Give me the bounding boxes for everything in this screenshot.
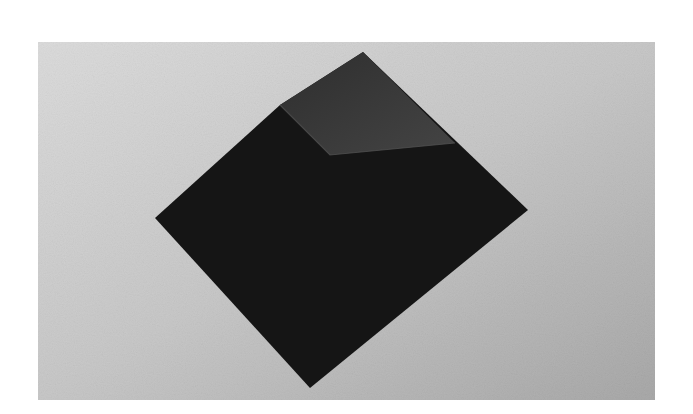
photograph [0, 0, 693, 414]
